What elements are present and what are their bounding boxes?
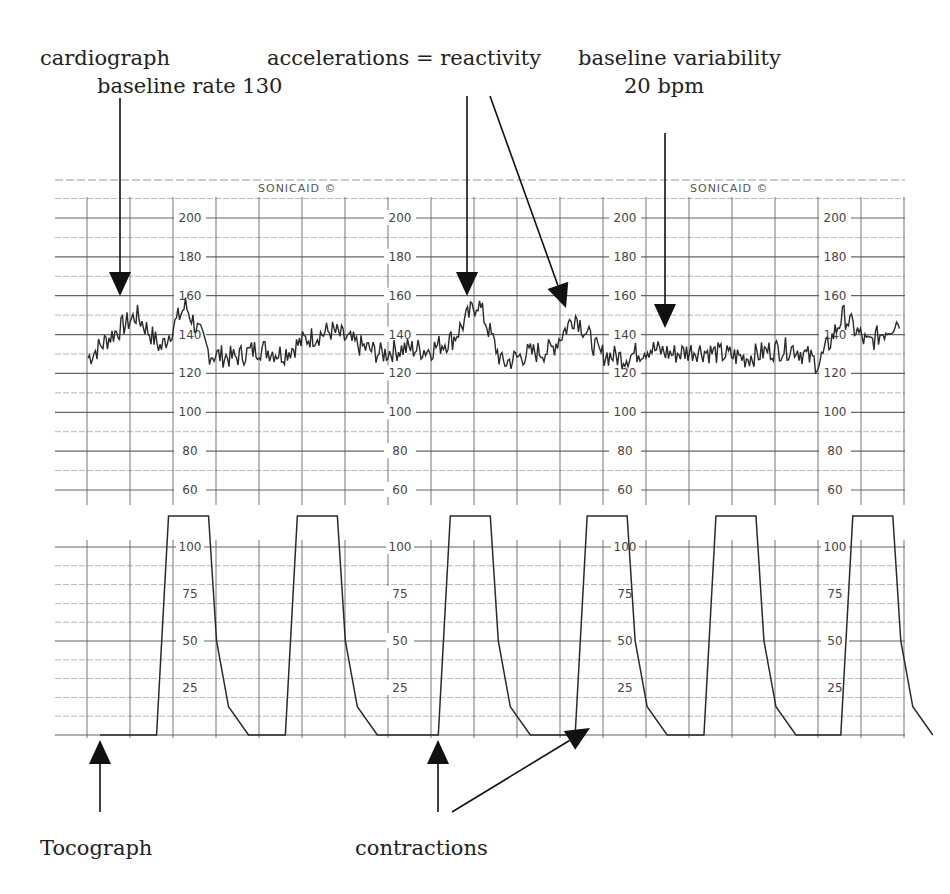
svg-text:180: 180: [614, 250, 637, 264]
svg-text:180: 180: [824, 250, 847, 264]
svg-text:SONICAID ©: SONICAID ©: [258, 182, 337, 195]
svg-text:100: 100: [824, 405, 847, 419]
svg-text:120: 120: [824, 366, 847, 380]
svg-text:160: 160: [179, 289, 202, 303]
svg-text:100: 100: [614, 405, 637, 419]
svg-text:120: 120: [179, 366, 202, 380]
toco-trace: [100, 516, 933, 735]
svg-text:50: 50: [392, 634, 407, 648]
svg-text:60: 60: [392, 483, 407, 497]
svg-text:60: 60: [617, 483, 632, 497]
svg-text:25: 25: [392, 681, 407, 695]
svg-text:80: 80: [182, 444, 197, 458]
svg-text:80: 80: [617, 444, 632, 458]
svg-text:100: 100: [389, 405, 412, 419]
scale-labels: 2001801601401201008060100755025200180160…: [174, 182, 851, 695]
svg-text:100: 100: [824, 540, 847, 554]
svg-text:200: 200: [389, 211, 412, 225]
svg-text:140: 140: [179, 328, 202, 342]
svg-text:100: 100: [179, 540, 202, 554]
svg-text:25: 25: [827, 681, 842, 695]
svg-text:100: 100: [614, 540, 637, 554]
svg-text:75: 75: [827, 587, 842, 601]
svg-text:120: 120: [614, 366, 637, 380]
svg-text:50: 50: [617, 634, 632, 648]
svg-text:60: 60: [827, 483, 842, 497]
svg-text:180: 180: [179, 250, 202, 264]
svg-text:180: 180: [389, 250, 412, 264]
svg-text:140: 140: [614, 328, 637, 342]
svg-text:160: 160: [824, 289, 847, 303]
ctg-strip: 2001801601401201008060100755025200180160…: [0, 0, 950, 894]
svg-text:120: 120: [389, 366, 412, 380]
svg-text:25: 25: [617, 681, 632, 695]
svg-text:SONICAID ©: SONICAID ©: [690, 182, 769, 195]
svg-text:80: 80: [827, 444, 842, 458]
svg-text:75: 75: [617, 587, 632, 601]
svg-text:80: 80: [392, 444, 407, 458]
svg-text:75: 75: [392, 587, 407, 601]
svg-text:200: 200: [824, 211, 847, 225]
svg-text:50: 50: [182, 634, 197, 648]
svg-text:200: 200: [179, 211, 202, 225]
svg-text:160: 160: [389, 289, 412, 303]
svg-text:25: 25: [182, 681, 197, 695]
svg-text:200: 200: [614, 211, 637, 225]
svg-text:100: 100: [179, 405, 202, 419]
svg-text:60: 60: [182, 483, 197, 497]
fhr-trace: [88, 298, 900, 373]
svg-text:100: 100: [389, 540, 412, 554]
svg-text:50: 50: [827, 634, 842, 648]
svg-text:160: 160: [614, 289, 637, 303]
svg-text:75: 75: [182, 587, 197, 601]
